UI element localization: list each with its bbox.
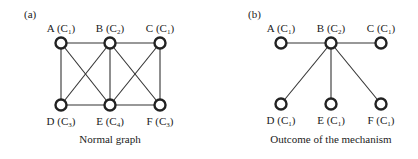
node-A xyxy=(56,38,67,49)
panel-a: (a) A (C1)B (C2)C (C1)D (C3)E (C4)F (C3)… xyxy=(24,8,174,145)
graph-diagram: (a) A (C1)B (C2)C (C1)D (C3)E (C4)F (C3)… xyxy=(0,0,418,159)
edge-B-D xyxy=(281,43,331,104)
node-A xyxy=(276,38,287,49)
panel-a-tag: (a) xyxy=(24,8,37,21)
node-label-C: C (C1) xyxy=(367,22,396,36)
node-D xyxy=(276,99,287,110)
node-E xyxy=(105,100,116,111)
node-F xyxy=(155,100,166,111)
edge-B-F xyxy=(331,43,381,104)
node-label-E: E (C4) xyxy=(96,115,124,129)
node-label-D: D (C1) xyxy=(267,114,296,128)
node-C xyxy=(376,38,387,49)
caption-outcome: Outcome of the mechanism xyxy=(270,133,392,145)
panel-b-tag: (b) xyxy=(248,8,261,21)
node-label-A: A (C1) xyxy=(47,22,76,36)
node-label-D: D (C3) xyxy=(47,115,76,129)
node-label-E: E (C1) xyxy=(317,114,345,128)
node-label-F: F (C3) xyxy=(146,115,173,129)
node-label-F: F (C1) xyxy=(367,114,394,128)
node-C xyxy=(155,38,166,49)
node-D xyxy=(56,100,67,111)
node-B xyxy=(326,38,337,49)
caption-normal-graph: Normal graph xyxy=(79,133,141,145)
panel-b: (b) A (C1)B (C2)C (C1)D (C1)E (C1)F (C1)… xyxy=(248,8,395,145)
node-label-B: B (C2) xyxy=(317,22,346,36)
node-label-C: C (C1) xyxy=(146,22,175,36)
node-B xyxy=(105,38,116,49)
node-label-B: B (C2) xyxy=(96,22,125,36)
edges-outcome-graph xyxy=(281,43,381,104)
node-label-A: A (C1) xyxy=(267,22,296,36)
node-E xyxy=(326,99,337,110)
node-F xyxy=(376,99,387,110)
edges-normal-graph xyxy=(61,43,160,105)
